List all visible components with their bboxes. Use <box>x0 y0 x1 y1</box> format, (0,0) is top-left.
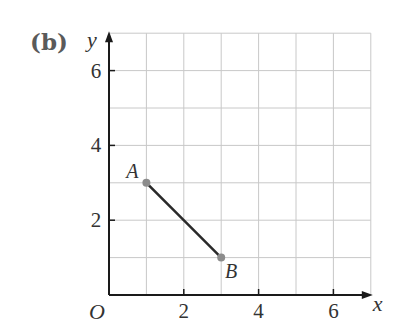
point-B <box>217 254 225 262</box>
figure: (b) 246246 AB xyO <box>0 0 398 332</box>
axes <box>105 31 373 299</box>
point-label-B: B <box>225 260 237 282</box>
y-tick-label: 2 <box>91 208 102 232</box>
point-label-A: A <box>124 160 139 182</box>
x-tick-label: 6 <box>328 299 339 323</box>
x-tick-label: 4 <box>253 299 264 323</box>
axis-ticks: 246246 <box>91 59 339 323</box>
grid-lines <box>109 33 371 295</box>
origin-label: O <box>89 299 105 324</box>
coordinate-plane: 246246 AB xyO <box>0 0 398 332</box>
data-points: AB <box>124 160 237 282</box>
point-A <box>142 179 150 187</box>
y-tick-label: 4 <box>91 133 102 157</box>
y-axis-label: y <box>85 27 97 52</box>
x-tick-label: 2 <box>179 299 190 323</box>
x-axis-label: x <box>372 291 383 316</box>
y-tick-label: 6 <box>91 59 102 83</box>
